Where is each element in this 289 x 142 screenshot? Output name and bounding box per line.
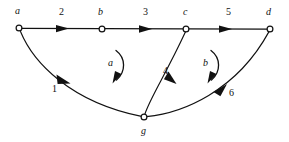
edge-b-c <box>139 25 152 32</box>
node-label-c: c <box>183 6 188 17</box>
face-arc-label-b: b <box>203 57 208 68</box>
node-label-a: a <box>15 5 20 16</box>
edge-label-c-d: 5 <box>226 6 231 17</box>
graph-diagram: a b c d g 2 3 5 1 4 6 a b <box>0 0 289 142</box>
face-arc-b <box>208 51 219 84</box>
node-label-b: b <box>98 6 103 17</box>
face-arc-label-a: a <box>108 57 113 68</box>
edge-label-a-g: 1 <box>52 83 57 94</box>
node-d[interactable] <box>267 26 273 32</box>
edge-a-g <box>21 32 142 117</box>
edge-a-b-arrowhead <box>56 25 69 32</box>
edge-g-d-arrowhead <box>214 84 228 96</box>
edge-label-a-b: 2 <box>59 6 64 17</box>
node-a[interactable] <box>16 25 22 31</box>
node-label-d: d <box>266 6 272 17</box>
edge-label-b-c: 3 <box>143 6 148 17</box>
edge-label-g-c: 4 <box>163 65 168 76</box>
edge-label-g-d: 6 <box>229 87 234 98</box>
node-c[interactable] <box>183 26 189 32</box>
face-arc-b-arrowhead <box>208 71 217 84</box>
node-label-g: g <box>141 125 146 136</box>
face-arc-a <box>113 51 124 84</box>
edge-a-g-curve <box>21 32 142 117</box>
face-arc-a-arrowhead <box>113 71 122 84</box>
node-b[interactable] <box>99 26 105 32</box>
edge-c-d <box>186 25 268 32</box>
edge-c-d-arrowhead <box>219 25 232 32</box>
edge-b-c-arrowhead <box>139 25 152 32</box>
graph-canvas: a b c d g 2 3 5 1 4 6 a b <box>0 0 289 142</box>
node-g[interactable] <box>141 114 147 120</box>
edge-a-g-arrowhead <box>57 75 71 85</box>
